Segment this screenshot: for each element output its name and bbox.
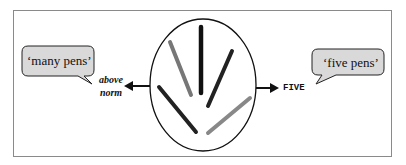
left-bubble-text: ‘many pens’ [27,53,92,69]
right-bubble-text: ‘five pens’ [323,55,379,71]
above-norm-label: above norm [94,73,128,99]
five-label: FIVE [283,83,305,93]
above-norm-line2: norm [94,86,128,99]
diagram-graphics [0,0,406,165]
above-norm-line1: above [94,73,128,86]
right-arrow-icon [256,83,279,93]
